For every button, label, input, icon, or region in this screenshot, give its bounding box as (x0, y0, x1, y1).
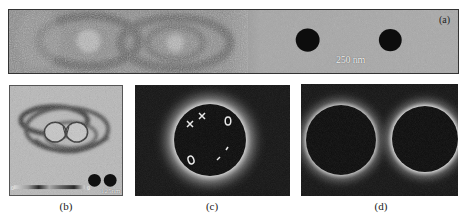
scale-bar-label: 250 nm (336, 54, 365, 65)
caption-d: (d) (361, 200, 401, 212)
scale-bar-label-b: 125nm (101, 187, 120, 195)
panel-a-image (9, 10, 458, 73)
panel-a: (a) 250 nm (8, 9, 459, 74)
panel-d (301, 84, 458, 196)
panel-b-image (10, 86, 122, 195)
panel-c (135, 85, 290, 196)
caption-c: (c) (192, 200, 232, 212)
panel-c-image (135, 85, 290, 196)
caption-b: (b) (46, 200, 86, 212)
panel-d-image (301, 84, 458, 196)
panel-b: 0 0 125nm (9, 85, 123, 196)
colorbar-min-label: 0 (11, 185, 14, 191)
colorbar-max-label: 0 (87, 185, 90, 191)
panel-a-label: (a) (439, 14, 450, 25)
